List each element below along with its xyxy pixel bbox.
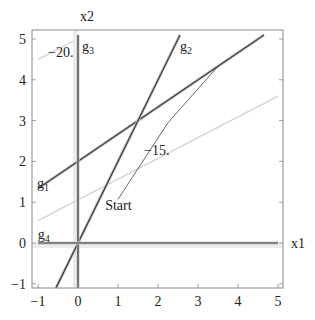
y-tick-label: 4 [19, 73, 26, 88]
y-tick-label: −1 [11, 277, 26, 292]
constraint-label-sub: 2 [187, 45, 192, 56]
constraint-label-g2: g2 [180, 39, 192, 56]
x1-axis-label: x1 [291, 236, 305, 251]
x-tick-label: 0 [75, 294, 82, 309]
start-label: Start [105, 198, 132, 213]
constraint-label-main: g [38, 227, 45, 242]
y-tick-label: 3 [19, 114, 26, 129]
x-tick-label: 3 [195, 294, 202, 309]
x-tick-label: 1 [115, 294, 122, 309]
constraint-label-sub: 1 [44, 182, 49, 193]
y-tick-label: 0 [19, 236, 26, 251]
x-tick-label: 5 [275, 294, 282, 309]
constraint-label-main: g [82, 39, 89, 54]
contour-label: −15. [144, 143, 169, 158]
constraint-label-g3: g3 [82, 39, 94, 56]
x-tick-label: 2 [155, 294, 162, 309]
optimization-plot: −1012345−1012345 −20.−15.g1g2g3g4Start x… [0, 0, 315, 320]
x-tick-label: 4 [235, 294, 242, 309]
contour-label: −20. [48, 45, 73, 60]
constraint-label-main: g [37, 176, 44, 191]
x2-axis-label: x2 [80, 9, 94, 24]
x-tick-label: −1 [31, 294, 46, 309]
constraint-label-sub: 3 [89, 45, 94, 56]
y-tick-label: 1 [19, 195, 26, 210]
y-tick-label: 5 [19, 32, 26, 47]
constraint-label-main: g [180, 39, 187, 54]
y-tick-label: 2 [19, 154, 26, 169]
constraint-label-sub: 4 [45, 233, 50, 244]
annotations: −20.−15.g1g2g3g4Start [37, 39, 192, 244]
constraint-label-g1: g1 [37, 176, 49, 193]
axis-ticks: −1012345−1012345 [11, 32, 283, 309]
constraint-label-g4: g4 [38, 227, 50, 244]
